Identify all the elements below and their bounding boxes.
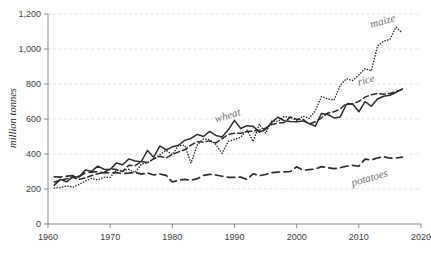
series-label-wheat: wheat — [213, 105, 242, 124]
crop-production-line-chart: 02004006008001,0001,200 1960197019801990… — [0, 0, 431, 255]
x-axis: 1960197019801990200020102020 — [38, 224, 431, 242]
x-tick-label: 1970 — [100, 232, 120, 242]
y-tick-label: 1,000 — [18, 44, 41, 54]
x-tick-label: 1960 — [38, 232, 58, 242]
y-tick-label: 800 — [26, 79, 41, 89]
y-tick-label: 200 — [26, 184, 41, 194]
x-tick-label: 2020 — [411, 232, 431, 242]
series-line-rice — [54, 89, 402, 182]
x-tick-label: 2010 — [349, 232, 369, 242]
x-tick-label: 1990 — [224, 232, 244, 242]
chart-container: 02004006008001,0001,200 1960197019801990… — [0, 0, 431, 255]
y-axis: 02004006008001,0001,200 — [18, 9, 48, 229]
series-label-rice: rice — [356, 71, 376, 87]
series-label-potatoes: potatoes — [349, 166, 389, 188]
y-tick-label: 600 — [26, 114, 41, 124]
y-tick-label: 1,200 — [18, 9, 41, 19]
x-tick-label: 2000 — [287, 232, 307, 242]
x-tick-label: 1980 — [162, 232, 182, 242]
y-tick-label: 0 — [36, 219, 41, 229]
y-tick-label: 400 — [26, 149, 41, 159]
y-axis-title: million tonnes — [7, 88, 18, 148]
series-labels: maizericewheatpotatoes — [213, 11, 397, 188]
